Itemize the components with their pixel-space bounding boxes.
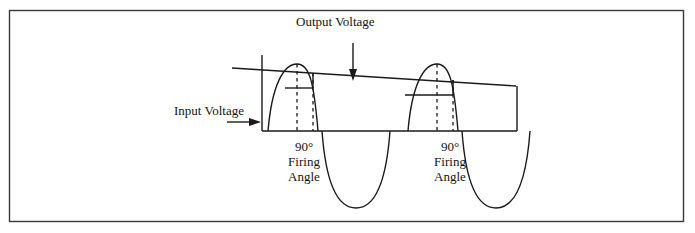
waveform-diagram: [0, 0, 695, 233]
figure-container: Output Voltage Input Voltage 90° Firing …: [0, 0, 695, 233]
sine-positive-hump-2: [408, 64, 458, 131]
firing-angle-degrees-1: 90°: [272, 139, 336, 154]
figure-border: [10, 11, 684, 222]
firing-angle-word-angle-1: Angle: [272, 169, 336, 184]
input-voltage-arrow-head: [249, 118, 261, 126]
firing-angle-label-1: 90° Firing Angle: [272, 139, 336, 184]
output-voltage-label: Output Voltage: [296, 14, 375, 29]
firing-angle-word-angle-2: Angle: [418, 169, 482, 184]
input-voltage-label: Input Voltage: [174, 103, 244, 118]
firing-angle-word-firing-2: Firing: [418, 154, 482, 169]
firing-angle-label-2: 90° Firing Angle: [418, 139, 482, 184]
sine-positive-hump-1: [268, 64, 318, 131]
firing-angle-word-firing-1: Firing: [272, 154, 336, 169]
firing-angle-degrees-2: 90°: [418, 139, 482, 154]
input-voltage-envelope-line: [232, 68, 516, 86]
